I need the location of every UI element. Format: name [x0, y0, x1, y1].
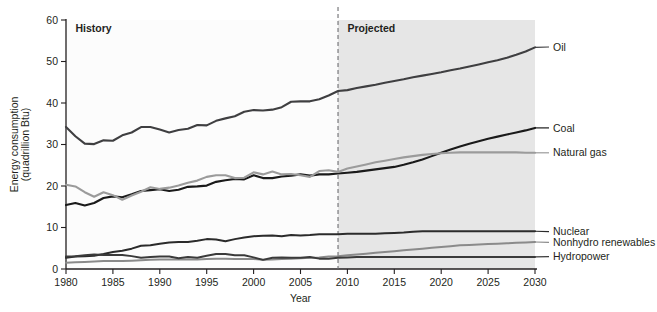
- y-tick-label-30: 30: [46, 138, 58, 150]
- chart-figure: 0102030405060198019851990199520002005201…: [0, 0, 657, 312]
- x-tick-label-2010: 2010: [336, 276, 360, 288]
- x-tick-label-2025: 2025: [476, 276, 500, 288]
- energy-consumption-line-chart: 0102030405060198019851990199520002005201…: [0, 0, 657, 312]
- series-label-oil: Oil: [553, 41, 566, 53]
- series-label-hydropower: Hydropower: [553, 250, 610, 262]
- x-tick-label-2020: 2020: [430, 276, 454, 288]
- x-tick-label-2015: 2015: [383, 276, 407, 288]
- x-tick-label-2030: 2030: [523, 276, 547, 288]
- y-tick-label-0: 0: [52, 263, 58, 275]
- x-tick-label-1995: 1995: [195, 276, 219, 288]
- x-tick-label-1990: 1990: [148, 276, 172, 288]
- y-tick-label-50: 50: [46, 55, 58, 67]
- annotation-projected: Projected: [347, 22, 395, 34]
- history-band: [66, 20, 338, 269]
- x-axis-title: Year: [290, 292, 312, 304]
- y-tick-label-60: 60: [46, 14, 58, 26]
- series-label-natural-gas: Natural gas: [553, 146, 607, 158]
- annotation-history: History: [75, 22, 111, 34]
- y-tick-label-40: 40: [46, 97, 58, 109]
- y-axis-title-line2: (quadrillion Btu): [19, 108, 31, 182]
- series-label-coal: Coal: [553, 122, 575, 134]
- y-axis-title: Energy consumption(quadrillion Btu): [8, 96, 31, 192]
- y-tick-label-10: 10: [46, 221, 58, 233]
- x-tick-label-1985: 1985: [101, 276, 125, 288]
- series-label-nonhydro-renewables: Nonhydro renewables: [553, 236, 655, 248]
- x-tick-label-2000: 2000: [242, 276, 266, 288]
- x-tick-label-1980: 1980: [54, 276, 78, 288]
- x-tick-label-2005: 2005: [289, 276, 313, 288]
- y-tick-label-20: 20: [46, 180, 58, 192]
